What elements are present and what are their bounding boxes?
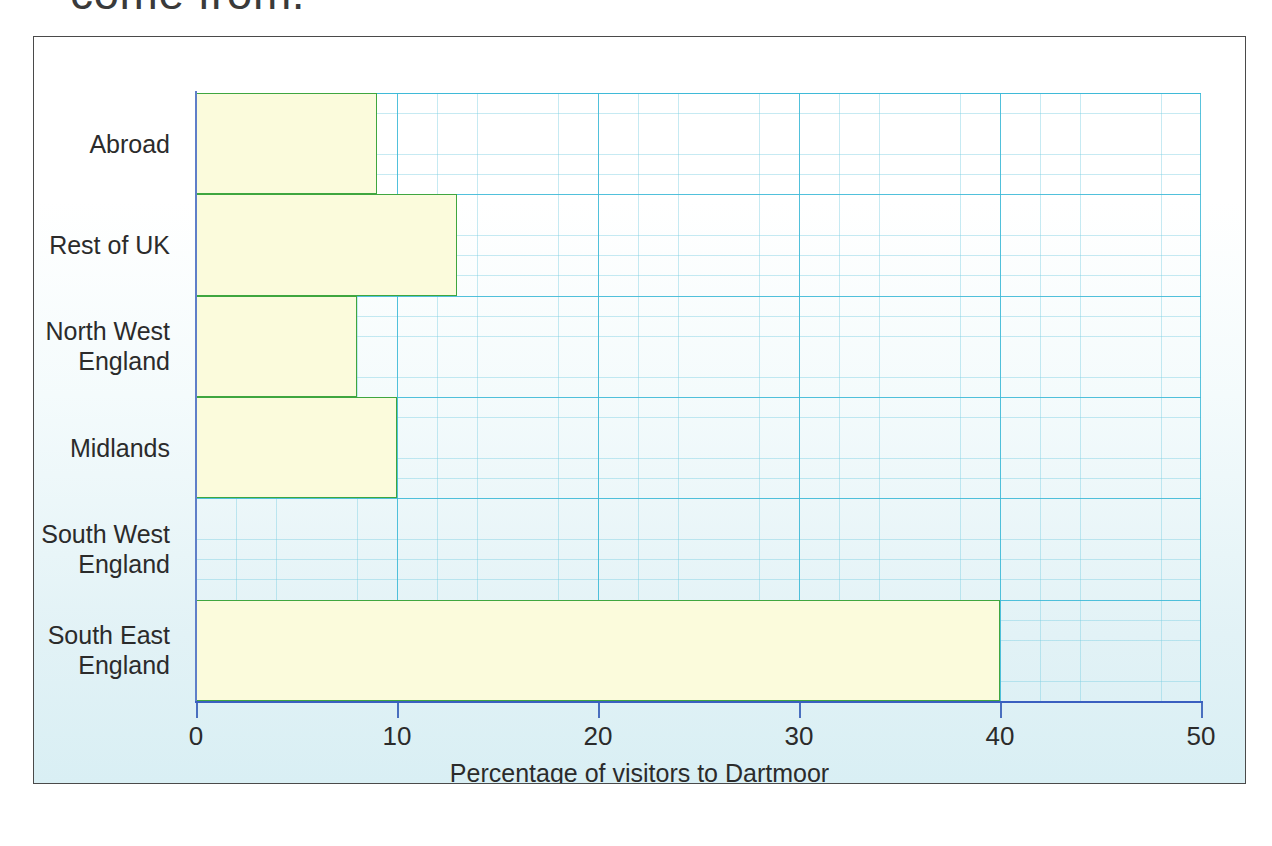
chart-figure: AbroadRest of UKNorth WestEnglandMidland… xyxy=(33,36,1246,784)
caption-clip: come from. xyxy=(0,0,1272,22)
category-label-south-east-england: South EastEngland xyxy=(33,620,170,680)
x-tick-mark xyxy=(598,703,600,718)
x-tick-label: 50 xyxy=(1161,721,1241,752)
category-label-midlands: Midlands xyxy=(33,433,170,463)
plot-area xyxy=(196,93,1201,701)
category-label-line: South East xyxy=(33,620,170,650)
category-label-line: Midlands xyxy=(33,433,170,463)
x-tick-label: 30 xyxy=(759,721,839,752)
bar-south-east-england[interactable] xyxy=(196,600,1000,701)
bar-abroad[interactable] xyxy=(196,93,377,194)
caption-partial-text: come from. xyxy=(70,0,305,20)
x-axis-title: Percentage of visitors to Dartmoor xyxy=(34,759,1245,784)
category-label-north-west-england: North WestEngland xyxy=(33,316,170,376)
category-label-south-west-england: South WestEngland xyxy=(33,519,170,579)
bar-north-west-england[interactable] xyxy=(196,296,357,397)
y-axis-line xyxy=(195,91,197,703)
x-tick-mark xyxy=(799,703,801,718)
x-tick-label: 20 xyxy=(558,721,638,752)
bar-row xyxy=(196,600,1201,701)
bar-rest-of-uk[interactable] xyxy=(196,194,457,295)
bar-row xyxy=(196,397,1201,498)
category-label-rest-of-uk: Rest of UK xyxy=(33,230,170,260)
category-label-line: Rest of UK xyxy=(33,230,170,260)
x-tick-mark xyxy=(397,703,399,718)
x-tick-mark xyxy=(196,703,198,718)
bar-row xyxy=(196,194,1201,295)
category-label-abroad: Abroad xyxy=(33,129,170,159)
x-tick-label: 0 xyxy=(156,721,236,752)
x-tick-mark xyxy=(1201,703,1203,718)
category-label-line: North West xyxy=(33,316,170,346)
bar-row xyxy=(196,93,1201,194)
category-label-line: Abroad xyxy=(33,129,170,159)
bar-midlands[interactable] xyxy=(196,397,397,498)
bar-row xyxy=(196,296,1201,397)
x-tick-mark xyxy=(1000,703,1002,718)
x-axis-line xyxy=(195,701,1203,703)
category-label-line: England xyxy=(33,650,170,680)
x-tick-label: 40 xyxy=(960,721,1040,752)
category-label-line: England xyxy=(33,346,170,376)
category-label-line: England xyxy=(33,549,170,579)
x-tick-label: 10 xyxy=(357,721,437,752)
category-label-line: South West xyxy=(33,519,170,549)
bar-row xyxy=(196,498,1201,599)
